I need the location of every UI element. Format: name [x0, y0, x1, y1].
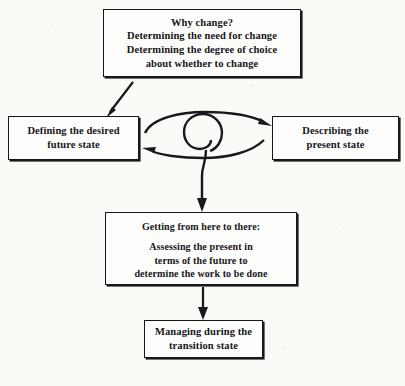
- node-why-change-line-4: about whether to change: [146, 57, 259, 71]
- node-getting-there-heading: Getting from here to there:: [142, 220, 260, 233]
- node-why-change-line-3: Determining the degree of choice: [127, 43, 278, 57]
- node-getting-there-line-1: Assessing the present in: [149, 240, 253, 253]
- node-why-change: Why change? Determining the need for cha…: [103, 9, 301, 77]
- node-getting-there-line-3: determine the work to be done: [134, 267, 267, 280]
- node-transition-state-line-2: transition state: [169, 339, 238, 353]
- node-future-state-line-1: Defining the desired: [27, 124, 119, 138]
- arrow-getting-there-to-transition-state: [198, 287, 208, 320]
- node-future-state: Defining the desired future state: [8, 116, 139, 160]
- node-why-change-line-2: Determining the need for change: [127, 29, 277, 43]
- spiral-icon: [184, 114, 222, 151]
- node-transition-state-line-1: Managing during the: [155, 325, 252, 339]
- node-why-change-line-1: Why change?: [171, 16, 233, 30]
- node-transition-state: Managing during the transition state: [144, 320, 263, 358]
- arrow-spiral-to-getting-there: [197, 150, 207, 212]
- node-present-state-line-1: Describing the: [302, 124, 368, 138]
- node-future-state-line-2: future state: [47, 138, 100, 152]
- node-present-state: Describing the present state: [272, 116, 399, 160]
- arrow-why-change-to-future-state: [106, 82, 133, 118]
- node-getting-there-line-2: terms of the future to: [154, 254, 247, 267]
- node-present-state-line-2: present state: [307, 138, 365, 152]
- node-getting-there: Getting from here to there: Assessing th…: [105, 212, 297, 285]
- change-process-diagram: Why change? Determining the need for cha…: [0, 0, 405, 386]
